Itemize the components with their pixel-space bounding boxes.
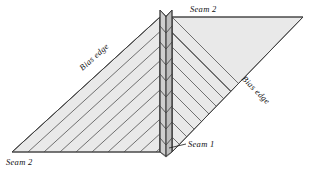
label-bias-edge-right: Bias edge	[240, 74, 273, 107]
figure-container: Seam 2 Seam 2 Seam 1 Bias edge Bias edge	[0, 0, 312, 174]
label-seam-bottom-left: Seam 2	[6, 157, 33, 167]
center-seam-spine	[160, 10, 172, 157]
bias-seam-diagram: Seam 2 Seam 2 Seam 1 Bias edge Bias edge	[0, 0, 312, 174]
label-seam-top: Seam 2	[190, 4, 217, 14]
right-fabric-panel	[156, 17, 307, 152]
label-seam-center: Seam 1	[188, 139, 215, 149]
